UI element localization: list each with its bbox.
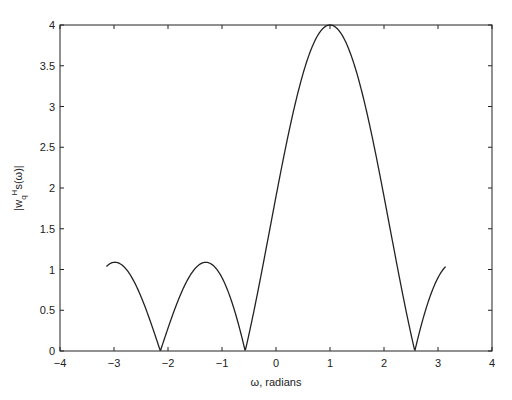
y-tick-label: 2: [49, 182, 55, 194]
x-axis-label: ω, radians: [251, 376, 302, 388]
y-tick-label: 3: [49, 101, 55, 113]
x-tick-label: 1: [327, 357, 333, 369]
y-tick-label: 0.5: [40, 304, 55, 316]
plot-frame: [60, 25, 492, 351]
y-axis-label: |wqHs(ω)|: [10, 165, 28, 210]
chart: −4−3−2−101234 00.511.522.533.54 ω, radia…: [0, 0, 512, 400]
x-tick-label: 2: [381, 357, 387, 369]
beampattern-line: [106, 25, 445, 350]
x-tick-label: −3: [108, 357, 121, 369]
y-tick-label: 1: [49, 264, 55, 276]
y-tick-label: 3.5: [40, 60, 55, 72]
y-tick-label: 1.5: [40, 223, 55, 235]
y-axis-ticks: 00.511.522.533.54: [40, 19, 492, 357]
x-tick-label: −4: [54, 357, 67, 369]
x-tick-label: 3: [435, 357, 441, 369]
x-tick-label: 0: [273, 357, 279, 369]
x-tick-label: −2: [162, 357, 175, 369]
x-axis-ticks: −4−3−2−101234: [54, 25, 495, 369]
y-tick-label: 0: [49, 345, 55, 357]
y-tick-label: 2.5: [40, 141, 55, 153]
x-tick-label: −1: [216, 357, 229, 369]
y-tick-label: 4: [49, 19, 55, 31]
x-tick-label: 4: [489, 357, 495, 369]
